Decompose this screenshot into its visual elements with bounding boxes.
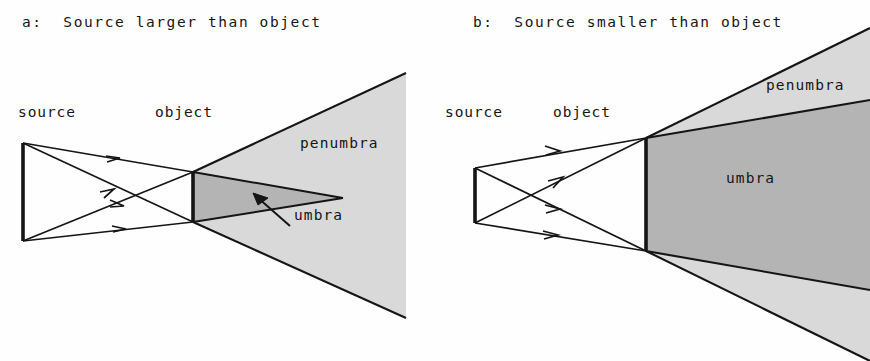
panel-b-penumbra-label: penumbra — [766, 77, 845, 93]
figure-root: a: Source larger than object source obje… — [0, 0, 870, 361]
panel-a-object-label: object — [155, 104, 213, 120]
panel-b-source-label: source — [445, 104, 503, 120]
panel-b-title: b: Source smaller than object — [473, 14, 783, 30]
panel-a-diagram — [0, 0, 435, 361]
panel-b-diagram — [435, 0, 870, 361]
panel-a-title: a: Source larger than object — [22, 14, 322, 30]
panel-a-ray-arrowheads — [100, 156, 126, 232]
panel-b-umbra-label: umbra — [726, 170, 775, 186]
panel-b-source-smaller: b: Source smaller than object source obj… — [435, 0, 870, 361]
panel-a-source-label: source — [18, 104, 76, 120]
panel-a-ray-top-to-top — [23, 143, 193, 172]
panel-a-umbra-label: umbra — [294, 207, 343, 223]
panel-a-source-larger: a: Source larger than object source obje… — [0, 0, 435, 361]
panel-b-ray-bottom-to-bottom — [475, 223, 646, 251]
panel-b-object-label: object — [553, 104, 611, 120]
panel-b-ray-arrowheads — [543, 146, 563, 239]
panel-a-penumbra-label: penumbra — [300, 135, 379, 151]
panel-b-ray-top-to-top — [475, 138, 646, 168]
